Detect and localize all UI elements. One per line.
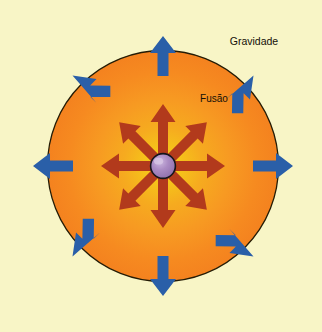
stellar-equilibrium-diagram: Gravidade Fusão bbox=[0, 0, 322, 332]
core-sphere bbox=[151, 154, 176, 179]
stellar-core bbox=[151, 154, 176, 179]
diagram-canvas: Gravidade Fusão bbox=[0, 0, 322, 332]
gravity-label: Gravidade bbox=[230, 35, 279, 47]
fusion-label: Fusão bbox=[200, 93, 228, 104]
core-highlight bbox=[154, 158, 163, 165]
